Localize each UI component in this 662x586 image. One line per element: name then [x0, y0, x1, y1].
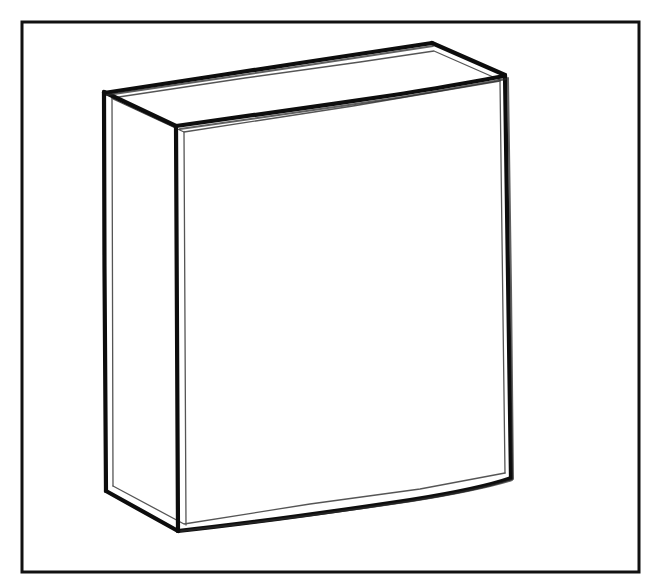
box-left-side-face [104, 92, 178, 531]
edge-left-vertical [104, 92, 106, 491]
edge-front-left-vertical [176, 126, 178, 531]
box-figure [104, 43, 513, 531]
drawing-canvas [0, 0, 662, 586]
box-line-drawing [0, 0, 662, 586]
box-front-face [176, 75, 511, 531]
